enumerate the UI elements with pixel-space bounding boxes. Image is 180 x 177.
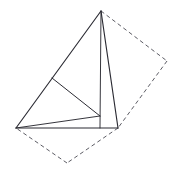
dashed-bottom-to-left-base xyxy=(16,128,67,163)
dashed-right-to-right-base xyxy=(118,61,167,128)
midleft-to-interior xyxy=(52,78,100,116)
geometry-canvas xyxy=(0,0,180,177)
left-to-interior xyxy=(16,116,100,128)
apex-to-dashed-right xyxy=(101,11,167,61)
dashed-edge-group xyxy=(16,11,167,163)
geometry-figure xyxy=(0,0,180,177)
apex-altitude xyxy=(100,11,101,128)
apex-to-right-base xyxy=(101,11,118,128)
solid-edge-group xyxy=(16,11,118,128)
right-base-to-dashed-bottom xyxy=(67,128,118,163)
apex-to-left-edge xyxy=(16,11,101,128)
